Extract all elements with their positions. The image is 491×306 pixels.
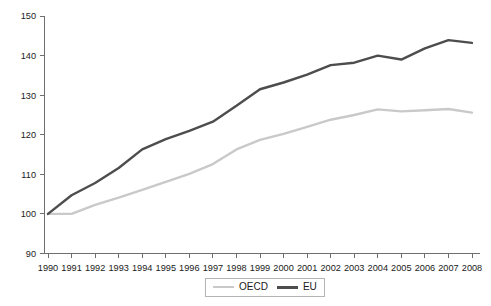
x-tick-label: 1990 bbox=[38, 263, 58, 273]
legend-label-eu: EU bbox=[303, 281, 317, 293]
x-tick-label: 1991 bbox=[61, 263, 81, 273]
legend-swatch-eu bbox=[277, 286, 298, 289]
x-tick-label: 1999 bbox=[250, 263, 270, 273]
legend-swatch-oecd bbox=[213, 286, 234, 288]
x-tick-label: 2006 bbox=[415, 263, 435, 273]
chart-legend: OECD EU bbox=[205, 278, 325, 297]
y-tick-label: 90 bbox=[26, 249, 36, 259]
series-line-oecd bbox=[48, 109, 472, 214]
y-tick-label: 110 bbox=[21, 170, 36, 180]
legend-item-oecd: OECD bbox=[213, 281, 268, 293]
y-tick-label: 130 bbox=[21, 91, 36, 101]
x-tick-label: 1994 bbox=[132, 263, 152, 273]
x-tick-label: 2008 bbox=[462, 263, 482, 273]
x-tick-label: 2007 bbox=[438, 263, 458, 273]
x-tick-label: 2001 bbox=[297, 263, 317, 273]
y-tick-marks bbox=[40, 16, 45, 254]
x-tick-label: 1995 bbox=[156, 263, 176, 273]
x-axis-group: 1990199119921993199419951996199719981999… bbox=[38, 254, 482, 274]
series-line-eu bbox=[48, 40, 472, 214]
x-tick-label: 2000 bbox=[273, 263, 293, 273]
y-tick-label: 140 bbox=[21, 51, 36, 61]
x-tick-labels: 1990199119921993199419951996199719981999… bbox=[38, 263, 482, 273]
x-tick-label: 1993 bbox=[108, 263, 128, 273]
x-tick-label: 1998 bbox=[226, 263, 246, 273]
line-chart: 15014013012011010090 1990199119921993199… bbox=[0, 0, 491, 306]
x-tick-label: 1992 bbox=[85, 263, 105, 273]
y-tick-label: 100 bbox=[21, 209, 36, 219]
x-tick-label: 1997 bbox=[203, 263, 223, 273]
x-tick-label: 2004 bbox=[368, 263, 388, 273]
x-tick-label: 1996 bbox=[179, 263, 199, 273]
legend-label-oecd: OECD bbox=[239, 281, 268, 293]
y-tick-label: 150 bbox=[21, 11, 36, 21]
y-axis-group: 15014013012011010090 bbox=[21, 11, 45, 259]
x-tick-marks bbox=[48, 254, 472, 259]
y-tick-label: 120 bbox=[21, 130, 36, 140]
plot-area: 15014013012011010090 1990199119921993199… bbox=[0, 0, 491, 306]
x-tick-label: 2005 bbox=[391, 263, 411, 273]
x-tick-label: 2002 bbox=[320, 263, 340, 273]
x-tick-label: 2003 bbox=[344, 263, 364, 273]
y-tick-labels: 15014013012011010090 bbox=[21, 11, 36, 259]
legend-item-eu: EU bbox=[277, 281, 317, 293]
data-series-group bbox=[48, 40, 472, 214]
